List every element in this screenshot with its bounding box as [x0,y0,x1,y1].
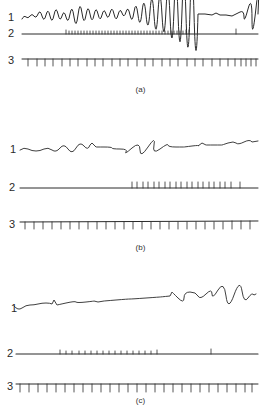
panel-a-trace-1-waveform [22,0,259,51]
panel-b-trace-1-waveform [20,140,258,153]
panel-c-trace-2-spikes [60,349,211,354]
panel-b-trace-3-baseline [20,221,258,222]
panel-b-trace-2-spikes [132,182,240,188]
panel-c-trace-3-ticks [20,384,252,392]
figure: 1 2 3 (a) 1 2 3 (b) 1 2 3 (c) [0,0,269,413]
panel-c-trace-1-waveform [14,285,256,309]
panel-a-trace-2-spikes [66,29,236,34]
panel-a-trace-3-ticks [28,59,256,66]
traces-drawing [0,0,269,413]
